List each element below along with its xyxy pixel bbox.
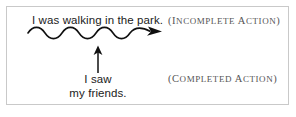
completed-action-clause-line2: my friends. [38, 87, 158, 99]
annotation-rest: NCOMPLETE [176, 16, 235, 26]
wavy-arrow-right-icon [26, 24, 168, 46]
completed-action-clause-line1: I saw [38, 73, 158, 85]
annotation-initial: C [172, 73, 180, 84]
annotation-word2-initial: A [238, 15, 246, 26]
incomplete-action-annotation: (INCOMPLETE ACTION) [168, 15, 280, 26]
completed-action-annotation: (COMPLETED ACTION) [168, 73, 277, 84]
annotation-rest: OMPLETED [180, 74, 232, 84]
annotation-word2-rest: CTION [243, 74, 273, 84]
annotation-word2-initial: A [235, 73, 243, 84]
annotation-paren-close: ) [273, 73, 277, 84]
aspect-diagram-figure: I was walking in the park. I saw my frie… [0, 0, 296, 117]
annotation-paren-close: ) [276, 15, 280, 26]
annotation-word2-rest: CTION [246, 16, 276, 26]
arrow-up-icon [86, 44, 110, 74]
